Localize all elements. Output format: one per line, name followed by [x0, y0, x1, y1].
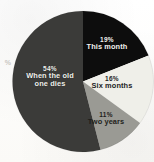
pie-slices: [13, 11, 154, 152]
chart-area: 19% This month 16% Six months 11% Two ye…: [0, 0, 154, 162]
pie-chart-svg: [0, 0, 154, 162]
pie-chart-figure: 19% This month 16% Six months 11% Two ye…: [0, 0, 154, 162]
